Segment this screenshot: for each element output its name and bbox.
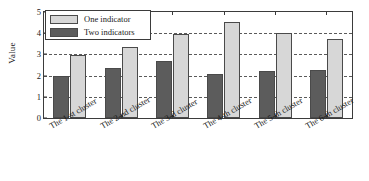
legend-item-one-indicator: One indicator bbox=[50, 14, 146, 25]
gridline bbox=[44, 76, 352, 77]
y-tick-label: 1 bbox=[37, 93, 41, 102]
y-tick-mark bbox=[44, 54, 47, 55]
y-tick-label: 2 bbox=[37, 71, 41, 80]
bar-chart-figure: Value 012345 One indicator Two indicator… bbox=[0, 0, 369, 181]
legend-item-two-indicators: Two indicators bbox=[50, 27, 146, 38]
legend-label-two-indicators: Two indicators bbox=[84, 28, 135, 37]
legend-swatch-two-indicators bbox=[50, 28, 78, 37]
y-axis-title: Value bbox=[7, 23, 17, 83]
chart-legend: One indicator Two indicators bbox=[45, 10, 151, 40]
gridline bbox=[44, 54, 352, 55]
y-tick-mark bbox=[44, 118, 47, 119]
legend-swatch-one-indicator bbox=[50, 15, 78, 24]
x-tick-mark bbox=[172, 12, 173, 15]
y-tick-label: 3 bbox=[37, 50, 41, 59]
x-tick-mark bbox=[326, 12, 327, 15]
x-tick-mark bbox=[224, 12, 225, 15]
legend-label-one-indicator: One indicator bbox=[84, 15, 131, 24]
x-tick-mark bbox=[275, 12, 276, 15]
y-tick-label: 4 bbox=[37, 29, 41, 38]
y-tick-label: 0 bbox=[37, 114, 41, 123]
y-tick-label: 5 bbox=[37, 8, 41, 17]
y-tick-mark bbox=[44, 96, 47, 97]
y-tick-mark bbox=[44, 75, 47, 76]
